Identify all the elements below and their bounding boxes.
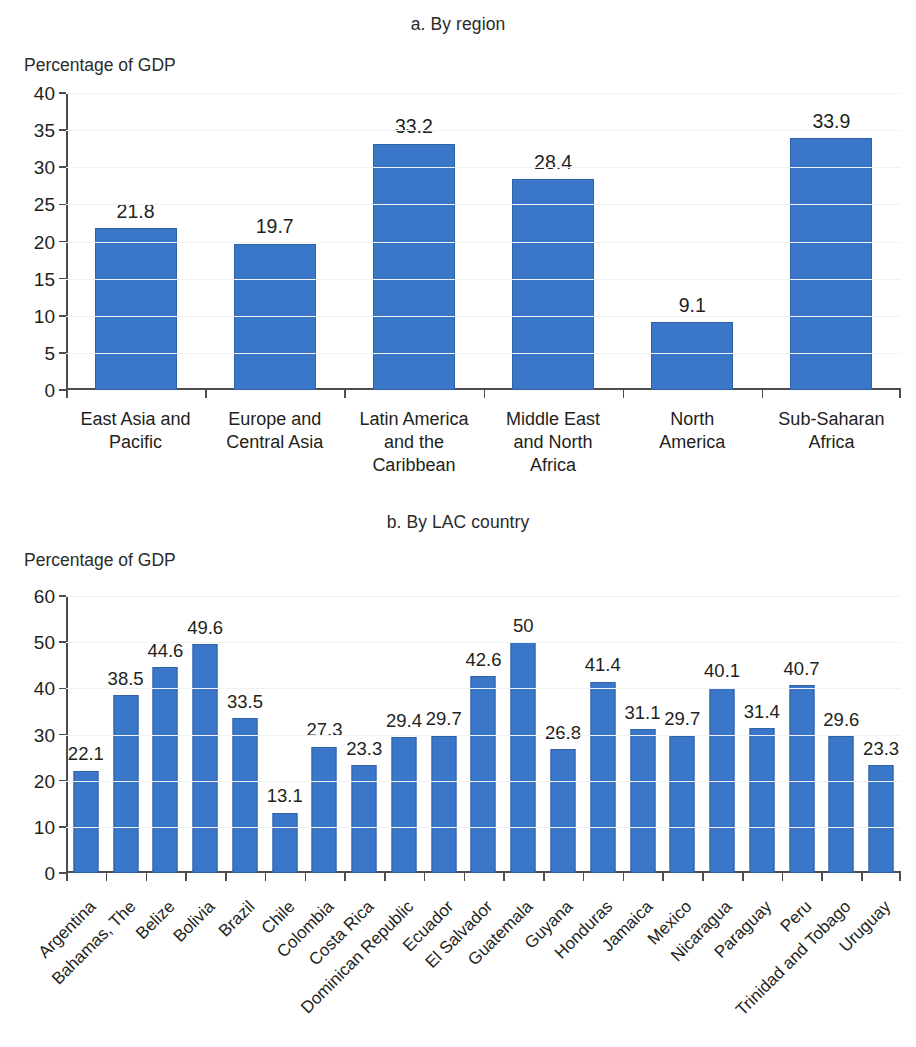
x-axis-tick — [503, 873, 505, 881]
x-axis-tick — [265, 873, 267, 881]
category-label-wrapper: Guatemala — [503, 881, 543, 882]
category-label-wrapper: Bahamas, The — [106, 881, 146, 882]
panel-b-y-axis-title: Percentage of GDP — [24, 550, 176, 571]
bar[interactable] — [630, 729, 655, 873]
bar[interactable] — [113, 695, 138, 873]
category-label-wrapper: Colombia — [305, 881, 345, 882]
category-label-wrapper: Jamaica — [623, 881, 663, 882]
y-axis-tick — [59, 641, 66, 643]
category-label-wrapper: Trinidad and Tobago — [821, 881, 861, 882]
y-axis-tick — [59, 734, 66, 736]
gridline — [66, 279, 901, 280]
bar-value-label: 31.1 — [625, 704, 661, 723]
category-label-wrapper: Uruguay — [861, 881, 901, 882]
x-axis-tick — [623, 390, 625, 398]
bar-value-label: 49.6 — [187, 619, 223, 638]
x-axis-category-label: East Asia andPacific — [56, 408, 216, 454]
bar-value-label: 33.2 — [395, 117, 433, 137]
gridline — [66, 204, 901, 205]
bar-value-label: 41.4 — [585, 656, 621, 675]
bar[interactable] — [232, 718, 257, 873]
x-axis-tick — [899, 873, 901, 881]
bar[interactable] — [312, 747, 337, 873]
bar[interactable] — [829, 736, 854, 873]
panel-b-title: b. By LAC country — [0, 512, 916, 533]
bar[interactable] — [193, 644, 218, 873]
bar-value-label: 23.3 — [346, 740, 382, 759]
bar[interactable] — [590, 682, 615, 873]
gridline — [66, 353, 901, 354]
y-axis-tick-label: 10 — [34, 307, 55, 326]
y-axis-tick-label: 20 — [34, 772, 55, 791]
y-axis-tick-label: 15 — [34, 270, 55, 289]
bar-value-label: 29.7 — [426, 710, 462, 729]
bar-value-label: 9.1 — [679, 296, 706, 316]
bar-value-label: 27.3 — [306, 721, 342, 740]
bar-value-label: 22.1 — [68, 745, 104, 764]
y-axis-tick — [59, 595, 66, 597]
bar[interactable] — [511, 642, 536, 873]
y-axis-tick-label: 40 — [34, 84, 55, 103]
y-axis-tick-label: 30 — [34, 726, 55, 745]
bar[interactable] — [670, 736, 695, 873]
bar-value-label: 23.3 — [863, 740, 899, 759]
x-axis-tick — [623, 873, 625, 881]
bar-value-label: 26.8 — [545, 724, 581, 743]
bar[interactable] — [272, 813, 297, 873]
bar[interactable] — [234, 244, 316, 390]
category-label-wrapper: NorthAmerica — [623, 398, 762, 399]
x-axis-tick — [424, 873, 426, 881]
category-label-wrapper: East Asia andPacific — [66, 398, 205, 399]
y-axis-tick — [59, 315, 66, 317]
category-label-wrapper: Latin Americaand theCaribbean — [344, 398, 483, 399]
x-axis-tick — [484, 390, 486, 398]
x-axis-tick — [821, 873, 823, 881]
bar[interactable] — [749, 728, 774, 873]
x-axis-tick — [464, 873, 466, 881]
category-label-wrapper: Sub-SaharanAfrica — [762, 398, 901, 399]
y-axis-tick — [59, 278, 66, 280]
bar[interactable] — [391, 737, 416, 873]
bar[interactable] — [95, 228, 177, 390]
bar-value-label: 50 — [513, 617, 534, 636]
bar[interactable] — [551, 749, 576, 873]
category-label-wrapper: Middle Eastand NorthAfrica — [484, 398, 623, 399]
y-axis-tick — [59, 826, 66, 828]
bar-value-label: 29.4 — [386, 712, 422, 731]
x-axis-category-label: Belize — [133, 897, 180, 944]
gridline — [66, 642, 901, 643]
bar[interactable] — [512, 179, 594, 390]
figure-root: a. By region Percentage of GDP 21.819.73… — [0, 0, 916, 1047]
x-axis-tick — [106, 873, 108, 881]
bar-value-label: 31.4 — [744, 703, 780, 722]
y-axis-tick — [59, 688, 66, 690]
category-label-wrapper: Europe andCentral Asia — [205, 398, 344, 399]
category-label-line: Latin America — [334, 408, 494, 431]
bar[interactable] — [73, 771, 98, 873]
y-axis-tick-label: 60 — [34, 587, 55, 606]
bar-value-label: 29.7 — [664, 710, 700, 729]
bar[interactable] — [789, 685, 814, 873]
gridline — [66, 130, 901, 131]
bar[interactable] — [651, 322, 733, 390]
bar[interactable] — [431, 736, 456, 873]
y-axis-tick-label: 40 — [34, 679, 55, 698]
category-label-line: and the — [334, 431, 494, 454]
y-axis-tick-label: 0 — [44, 381, 55, 400]
bar[interactable] — [153, 667, 178, 873]
category-label-wrapper: Paraguay — [742, 881, 782, 882]
y-axis-tick — [59, 129, 66, 131]
gridline — [66, 827, 901, 828]
x-axis-tick — [305, 873, 307, 881]
bar[interactable] — [471, 676, 496, 873]
x-axis-tick — [205, 390, 207, 398]
y-axis-tick — [59, 241, 66, 243]
y-axis-tick-label: 50 — [34, 633, 55, 652]
gridline — [66, 167, 901, 168]
panel-a-plot-area: 21.819.733.228.49.133.9 0510152025303540 — [66, 93, 901, 390]
y-axis-tick — [59, 389, 66, 391]
y-axis-tick-label: 5 — [44, 344, 55, 363]
category-label-wrapper: Guyana — [543, 881, 583, 882]
x-axis-tick — [861, 873, 863, 881]
category-label-wrapper: Mexico — [662, 881, 702, 882]
